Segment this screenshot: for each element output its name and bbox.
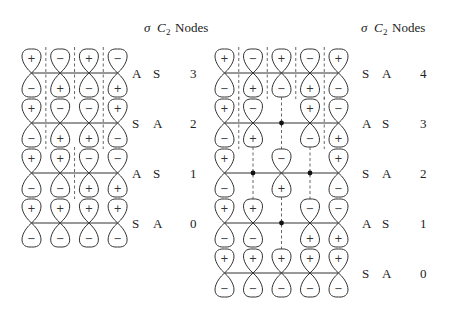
phase-sign-upper: + bbox=[306, 103, 314, 114]
phase-sign-lower: + bbox=[334, 233, 342, 244]
phase-sign-lower: + bbox=[113, 83, 121, 94]
phase-sign-upper: − bbox=[56, 103, 64, 114]
phase-sign-lower: − bbox=[306, 133, 314, 144]
phase-sign-lower: + bbox=[306, 83, 314, 94]
phase-sign-lower: − bbox=[334, 183, 342, 194]
phase-sign-lower: − bbox=[56, 183, 64, 194]
orbital-row: +−−++−−+AS3 bbox=[215, 97, 427, 149]
node-count: 3 bbox=[190, 66, 197, 81]
phase-sign-upper: + bbox=[249, 253, 257, 264]
phase-sign-upper: − bbox=[306, 203, 314, 214]
phase-sign-upper: − bbox=[85, 103, 93, 114]
phase-sign-lower: + bbox=[113, 183, 121, 194]
phase-sign-lower: + bbox=[249, 133, 257, 144]
sigma-symmetry-label: A bbox=[132, 66, 142, 81]
phase-sign-lower: + bbox=[334, 133, 342, 144]
phase-sign-upper: + bbox=[113, 103, 121, 114]
left-header: σ C 2 Nodes bbox=[144, 20, 208, 37]
phase-sign-upper: − bbox=[56, 53, 64, 64]
nodal-atom-dot bbox=[251, 171, 256, 176]
header-sigma: σ bbox=[144, 20, 151, 35]
sigma-symmetry-label: A bbox=[362, 116, 372, 131]
header-c2-subscript: 2 bbox=[383, 27, 388, 37]
phase-sign-lower: − bbox=[85, 233, 93, 244]
phase-sign-lower: − bbox=[113, 233, 121, 244]
orbital-row: +−+−−+−+AS1 bbox=[22, 147, 197, 199]
header-nodes: Nodes bbox=[392, 20, 425, 35]
phase-sign-upper: + bbox=[85, 53, 93, 64]
phase-sign-lower: + bbox=[56, 83, 64, 94]
c2-symmetry-label: S bbox=[153, 166, 160, 181]
phase-sign-upper: − bbox=[306, 53, 314, 64]
panel-four-atom: +−−++−−+AS3+−−+−++−SA2+−+−−+−+AS1+−+−+−+… bbox=[22, 47, 197, 247]
phase-sign-upper: − bbox=[249, 103, 257, 114]
node-count: 2 bbox=[190, 116, 197, 131]
phase-sign-lower: + bbox=[85, 183, 93, 194]
phase-sign-upper: + bbox=[85, 203, 93, 214]
node-count: 0 bbox=[190, 216, 197, 231]
phase-sign-upper: + bbox=[220, 153, 228, 164]
c2-symmetry-label: S bbox=[153, 66, 160, 81]
header-sigma: σ bbox=[361, 20, 368, 35]
phase-sign-upper: − bbox=[113, 153, 121, 164]
orbital-row: +−−++−SA2 bbox=[215, 147, 427, 199]
phase-sign-lower: − bbox=[249, 233, 257, 244]
phase-sign-upper: + bbox=[220, 203, 228, 214]
phase-sign-upper: + bbox=[27, 153, 35, 164]
phase-sign-upper: + bbox=[334, 53, 342, 64]
phase-sign-upper: + bbox=[277, 53, 285, 64]
c2-symmetry-label: A bbox=[382, 166, 392, 181]
phase-sign-upper: + bbox=[56, 153, 64, 164]
c2-symmetry-label: S bbox=[382, 116, 389, 131]
panel-five-atom: +−−++−−++−SA4+−−++−−+AS3+−−++−SA2+−+−−+−… bbox=[215, 47, 427, 297]
c2-symmetry-label: A bbox=[153, 216, 163, 231]
phase-sign-upper: + bbox=[27, 53, 35, 64]
c2-symmetry-label: A bbox=[382, 266, 392, 281]
phase-sign-upper: − bbox=[249, 53, 257, 64]
phase-sign-lower: + bbox=[85, 133, 93, 144]
phase-sign-upper: − bbox=[334, 103, 342, 114]
c2-symmetry-label: S bbox=[382, 216, 389, 231]
phase-sign-upper: + bbox=[220, 253, 228, 264]
phase-sign-lower: − bbox=[220, 133, 228, 144]
phase-sign-upper: + bbox=[334, 253, 342, 264]
phase-sign-upper: + bbox=[113, 203, 121, 214]
c2-symmetry-label: A bbox=[382, 66, 392, 81]
orbital-row: +−−++−−++−SA4 bbox=[215, 47, 427, 99]
sigma-symmetry-label: S bbox=[362, 66, 369, 81]
node-count: 1 bbox=[190, 166, 197, 181]
phase-sign-upper: − bbox=[334, 203, 342, 214]
phase-sign-lower: − bbox=[220, 233, 228, 244]
nodal-atom-dot bbox=[279, 121, 284, 126]
phase-sign-lower: + bbox=[306, 233, 314, 244]
phase-sign-lower: + bbox=[56, 133, 64, 144]
node-count: 4 bbox=[420, 66, 427, 81]
phase-sign-lower: − bbox=[277, 83, 285, 94]
orbital-row: +−−++−−+AS3 bbox=[22, 47, 197, 99]
phase-sign-upper: + bbox=[334, 153, 342, 164]
phase-sign-upper: + bbox=[27, 203, 35, 214]
phase-sign-upper: + bbox=[249, 203, 257, 214]
phase-sign-lower: + bbox=[277, 183, 285, 194]
node-count: 0 bbox=[420, 266, 427, 281]
phase-sign-lower: − bbox=[85, 83, 93, 94]
phase-sign-lower: − bbox=[220, 183, 228, 194]
phase-sign-lower: − bbox=[220, 83, 228, 94]
phase-sign-lower: − bbox=[27, 83, 35, 94]
orbital-row: +−+−−+−+AS1 bbox=[215, 197, 427, 249]
node-count: 1 bbox=[420, 216, 427, 231]
c2-symmetry-label: A bbox=[153, 116, 163, 131]
header-c2: C bbox=[157, 20, 166, 35]
phase-sign-upper: + bbox=[220, 103, 228, 114]
sigma-symmetry-label: S bbox=[362, 166, 369, 181]
phase-sign-lower: − bbox=[277, 283, 285, 294]
sigma-symmetry-label: A bbox=[132, 166, 142, 181]
node-count: 3 bbox=[420, 116, 427, 131]
phase-sign-lower: − bbox=[27, 233, 35, 244]
phase-sign-upper: + bbox=[220, 53, 228, 64]
phase-sign-lower: − bbox=[334, 283, 342, 294]
phase-sign-upper: + bbox=[306, 253, 314, 264]
orbital-row: +−+−+−+−SA0 bbox=[22, 199, 197, 247]
header-c2-subscript: 2 bbox=[166, 27, 171, 37]
node-count: 2 bbox=[420, 166, 427, 181]
